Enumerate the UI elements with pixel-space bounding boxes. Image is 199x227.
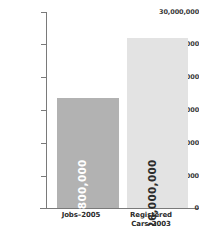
bar-jobs-2005: 16,800,000 [57,98,119,208]
plot-area: 16,800,000 26,000,000 [47,12,199,208]
bar-registered-cars-2003: 26,000,000 [127,38,188,208]
category-label-jobs: Jobs–2005 [45,211,117,220]
category-label-cars-line2: Cars–2003 [115,220,187,227]
bar-chart-figure: 30,000,000 25,000,000 20,000,000 15,000,… [0,0,199,226]
category-label-jobs-line1: Jobs–2005 [45,211,117,220]
y-tick-mark-0 [41,208,47,209]
category-label-cars-line1: Registered [115,211,187,220]
category-label-cars: Registered Cars–2003 [115,211,187,226]
